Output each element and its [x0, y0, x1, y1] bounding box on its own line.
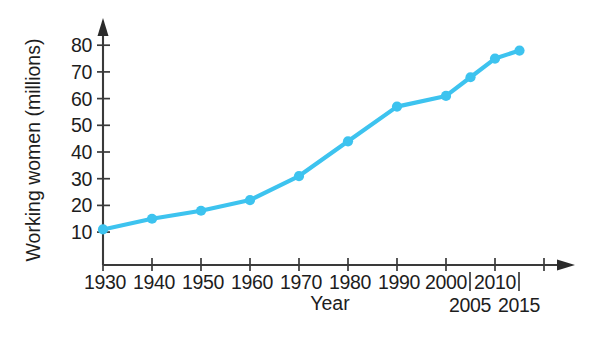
x-axis-tick-labels: 1930 1940 1950 1960 1970 1980 1990 2000 …	[84, 271, 517, 293]
x-axis-tick-labels-lower: 2005 2015	[449, 294, 541, 316]
y-tick-label-80: 80	[71, 34, 93, 56]
data-point-1990	[392, 102, 402, 112]
x-tick-label-1940: 1940	[133, 271, 176, 293]
x-tick-label-2005: 2005	[449, 294, 492, 316]
x-tick-label-2010: 2010	[474, 271, 517, 293]
data-series-line	[103, 51, 520, 230]
data-point-1980	[343, 136, 353, 146]
x-tick-label-1990: 1990	[378, 271, 421, 293]
x-tick-label-2015: 2015	[498, 294, 541, 316]
data-point-1950	[196, 206, 206, 216]
y-tick-label-40: 40	[71, 141, 93, 163]
y-tick-label-20: 20	[71, 194, 93, 216]
y-tick-label-70: 70	[71, 61, 93, 83]
y-axis-tick-labels: 10 20 30 40 50 60 70 80	[71, 34, 93, 243]
x-tick-label-1980: 1980	[329, 271, 372, 293]
data-point-2005	[465, 72, 475, 82]
x-tick-label-2000: 2000	[425, 271, 468, 293]
data-point-1930	[98, 224, 108, 234]
x-tick-label-1970: 1970	[280, 271, 323, 293]
data-point-1940	[147, 214, 157, 224]
chart-canvas: 10 20 30 40 50 60 70 80 Working women (m…	[0, 0, 595, 338]
data-point-1970	[294, 171, 304, 181]
data-point-markers	[98, 45, 525, 234]
data-point-2000	[441, 91, 451, 101]
y-tick-label-50: 50	[71, 114, 93, 136]
y-tick-label-60: 60	[71, 88, 93, 110]
y-tick-label-30: 30	[71, 168, 93, 190]
x-tick-label-1930: 1930	[84, 271, 127, 293]
y-tick-label-10: 10	[71, 221, 93, 243]
x-axis-title: Year	[310, 292, 350, 314]
x-tick-label-1950: 1950	[182, 271, 225, 293]
data-point-2010	[490, 53, 500, 63]
data-point-2015	[514, 45, 524, 55]
x-tick-label-1960: 1960	[231, 271, 274, 293]
y-axis-arrow-icon	[98, 18, 109, 36]
x-axis-arrow-icon	[557, 260, 575, 271]
y-axis-title: Working women (millions)	[22, 39, 44, 262]
line-chart: 10 20 30 40 50 60 70 80 Working women (m…	[0, 0, 595, 338]
data-point-1960	[245, 195, 255, 205]
